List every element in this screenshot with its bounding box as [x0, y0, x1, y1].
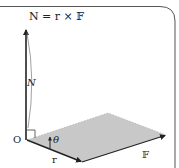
angle-label: θ	[53, 135, 59, 145]
right-angle-marker	[27, 130, 35, 138]
force-label: 𝔽	[142, 150, 149, 160]
position-label: r	[52, 155, 57, 165]
torque-diagram: N = r × 𝔽 N O θ r 𝔽	[0, 0, 179, 168]
diagram-title: N = r × 𝔽	[29, 11, 84, 22]
origin-label: O	[13, 135, 21, 145]
torque-label: N	[27, 78, 36, 88]
